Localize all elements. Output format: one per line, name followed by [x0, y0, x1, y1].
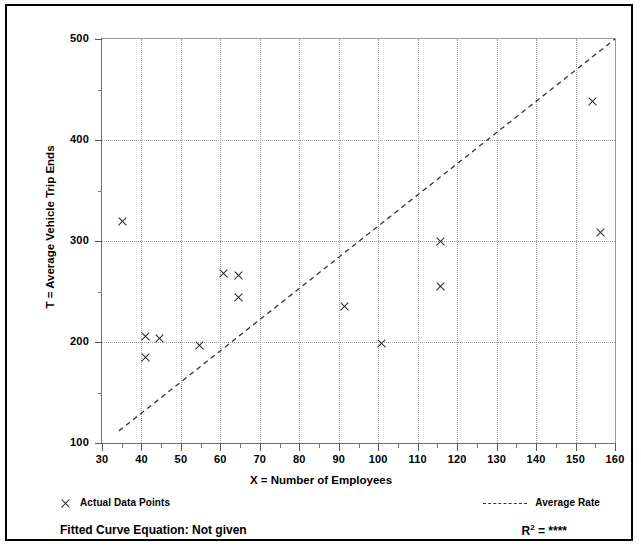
x-tick-label: 160 [595, 453, 635, 465]
x-tick [260, 444, 261, 451]
data-point-marker [140, 352, 151, 363]
x-tick-minor [516, 444, 517, 448]
y-tick [95, 241, 102, 242]
x-tick [418, 444, 419, 451]
x-tick-minor [437, 444, 438, 448]
y-tick [95, 342, 102, 343]
x-tick-label: 120 [437, 453, 477, 465]
x-tick-label: 150 [556, 453, 596, 465]
data-point-marker [435, 281, 446, 292]
x-tick-minor [201, 444, 202, 448]
x-tick-minor [398, 444, 399, 448]
x-tick-label: 40 [121, 453, 161, 465]
data-point-marker [194, 340, 205, 351]
x-tick-minor [477, 444, 478, 448]
y-axis-title: T = Average Vehicle Trip Ends [44, 107, 56, 347]
y-tick-label: 300 [53, 234, 89, 246]
x-tick [102, 444, 103, 451]
x-tick [497, 444, 498, 451]
y-tick [95, 140, 102, 141]
data-point-marker [435, 236, 446, 247]
y-tick [95, 443, 102, 444]
legend: Actual Data Points Average Rate [7, 493, 635, 517]
data-point-marker [117, 216, 128, 227]
x-tick-label: 140 [516, 453, 556, 465]
x-tick-minor [161, 444, 162, 448]
r-squared-base: R [522, 524, 531, 538]
chart-footer: Fitted Curve Equation: Not given R2 = **… [7, 521, 635, 543]
x-tick-label: 60 [200, 453, 240, 465]
chart-frame: 3040506070809010011012013014015016010020… [5, 4, 633, 541]
x-tick [457, 444, 458, 451]
x-tick [576, 444, 577, 451]
data-point-marker [140, 331, 151, 342]
data-point-marker [587, 96, 598, 107]
x-tick-minor [595, 444, 596, 448]
x-tick-minor [240, 444, 241, 448]
data-point-marker [339, 301, 350, 312]
x-tick [220, 444, 221, 451]
x-tick-label: 70 [240, 453, 280, 465]
x-tick-minor [556, 444, 557, 448]
trendline-segment [119, 39, 615, 431]
x-tick-minor [280, 444, 281, 448]
x-tick-minor [319, 444, 320, 448]
legend-cross-icon [60, 498, 71, 509]
y-tick-label: 100 [53, 436, 89, 448]
y-tick [95, 39, 102, 40]
data-point-marker [376, 338, 387, 349]
x-tick-label: 130 [477, 453, 517, 465]
x-tick-label: 50 [161, 453, 201, 465]
legend-dashed-line-icon [483, 503, 527, 504]
x-tick-minor [359, 444, 360, 448]
data-point-marker [154, 333, 165, 344]
data-point-marker [218, 268, 229, 279]
x-tick-label: 30 [82, 453, 122, 465]
x-tick-label: 110 [398, 453, 438, 465]
x-tick [299, 444, 300, 451]
data-point-marker [233, 270, 244, 281]
x-tick-minor [122, 444, 123, 448]
x-tick-label: 100 [358, 453, 398, 465]
x-tick [378, 444, 379, 451]
r-squared-value: R2 = **** [522, 523, 567, 538]
fitted-curve-equation: Fitted Curve Equation: Not given [60, 523, 247, 537]
x-tick [181, 444, 182, 451]
plot-right-edge [615, 38, 616, 444]
y-tick-label: 200 [53, 335, 89, 347]
data-point-marker [595, 227, 606, 238]
average-rate-trendline [102, 39, 615, 443]
legend-average-rate-label: Average Rate [535, 497, 600, 508]
x-tick [615, 444, 616, 451]
r-squared-rest: = **** [535, 524, 567, 538]
x-tick [141, 444, 142, 451]
x-tick [339, 444, 340, 451]
x-tick-label: 80 [279, 453, 319, 465]
x-axis-title: X = Number of Employees [7, 474, 635, 486]
y-tick-label: 500 [53, 32, 89, 44]
data-point-marker [233, 292, 244, 303]
legend-actual-data-points-label: Actual Data Points [80, 497, 170, 508]
x-tick-label: 90 [319, 453, 359, 465]
y-tick-label: 400 [53, 133, 89, 145]
x-tick [536, 444, 537, 451]
